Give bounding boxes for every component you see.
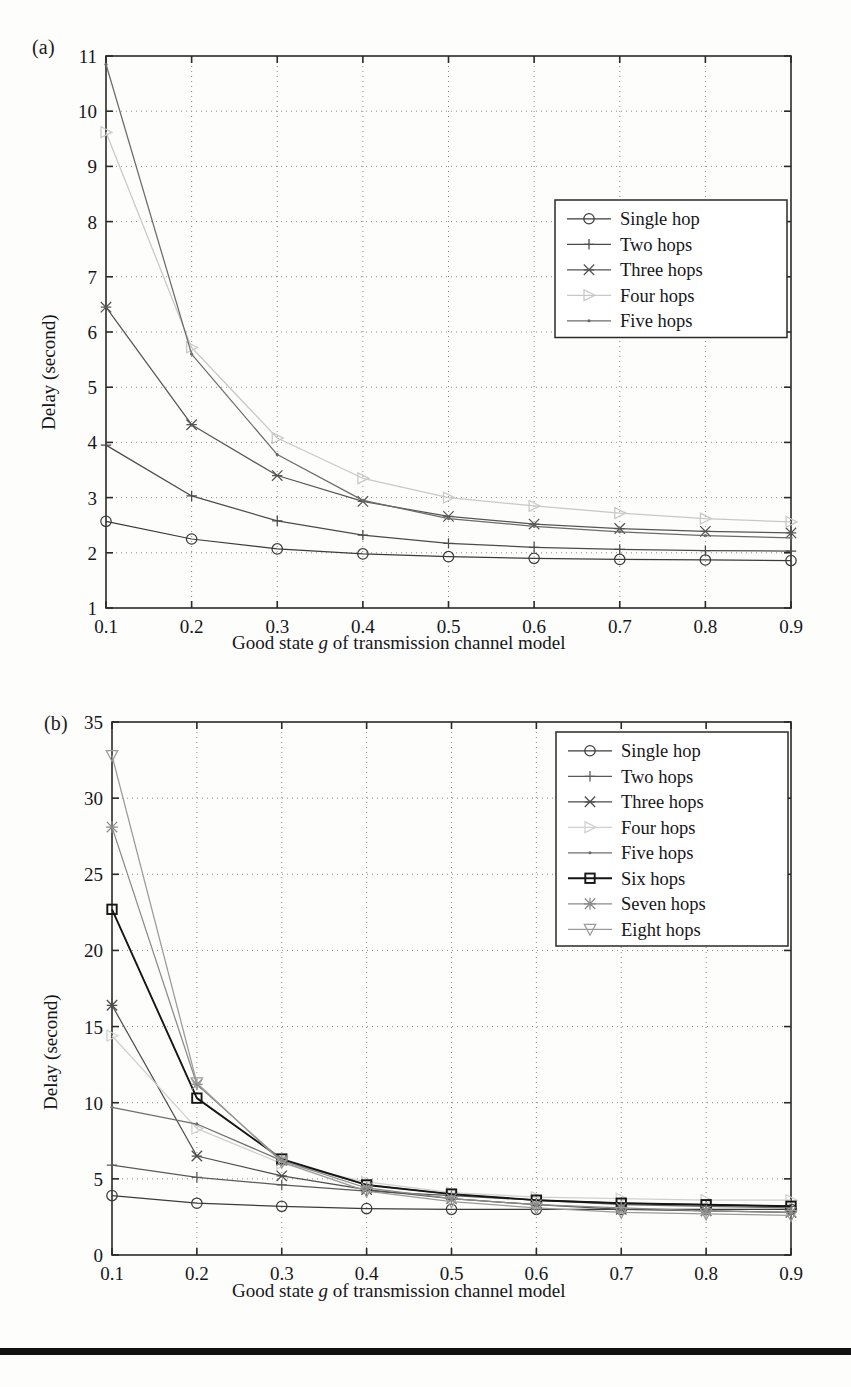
ytick-label: 3	[88, 488, 98, 509]
marker-plus	[101, 440, 111, 450]
marker-plus	[443, 538, 453, 548]
chart-a-xlabel: Good state g of transmission channel mod…	[232, 632, 566, 654]
series-line	[112, 1005, 791, 1212]
chart-b-xlabel-prefix: Good state	[232, 1280, 319, 1301]
legend-label: Two hops	[620, 235, 692, 255]
figure-page: (a) 12345678910110.10.20.30.40.50.60.70.…	[0, 0, 851, 1387]
chart-a-canvas: 12345678910110.10.20.30.40.50.60.70.80.9…	[0, 0, 851, 670]
legend-label: Six hops	[621, 869, 685, 889]
ytick-label: 6	[88, 322, 98, 343]
chart-b-canvas: 051015202530350.10.20.30.40.50.60.70.80.…	[0, 670, 851, 1320]
ytick-label: 5	[94, 1169, 104, 1190]
figure-panel-a: (a) 12345678910110.10.20.30.40.50.60.70.…	[0, 0, 851, 670]
chart-a-ylabel: Delay (second)	[38, 314, 60, 430]
marker-plus	[192, 1172, 202, 1182]
marker-asterisk	[106, 821, 118, 833]
marker-dot	[789, 536, 792, 539]
legend-label: Single hop	[621, 741, 701, 761]
legend-label: Three hops	[620, 260, 703, 280]
ytick-label: 2	[88, 543, 98, 564]
marker-dot	[361, 499, 364, 502]
xtick-label: 0.9	[779, 616, 803, 637]
xtick-label: 0.9	[779, 1263, 803, 1284]
ytick-label: 5	[88, 377, 98, 398]
xtick-label: 0.1	[94, 616, 118, 637]
legend-label: Single hop	[620, 209, 700, 229]
chart-a-xlabel-suffix: of transmission channel model	[328, 632, 565, 653]
ytick-label: 7	[88, 267, 98, 288]
xtick-label: 0.7	[608, 616, 632, 637]
marker-plus	[700, 545, 710, 555]
marker-dot	[588, 851, 591, 854]
xtick-label: 0.7	[609, 1263, 633, 1284]
marker-dot	[533, 525, 536, 528]
ytick-label: 8	[88, 212, 98, 233]
marker-dot	[195, 1122, 198, 1125]
chart-a-xlabel-italic: g	[319, 632, 329, 653]
svg-b-plot: 051015202530350.10.20.30.40.50.60.70.80.…	[84, 712, 803, 1284]
ytick-label: 15	[84, 1017, 103, 1038]
marker-dot	[618, 530, 621, 533]
chart-b-xlabel-suffix: of transmission channel model	[328, 1280, 565, 1301]
legend-label: Two hops	[621, 767, 693, 787]
ytick-label: 9	[88, 156, 98, 177]
marker-plus	[277, 1180, 287, 1190]
marker-asterisk	[584, 898, 596, 910]
chart-a-xlabel-prefix: Good state	[232, 632, 319, 653]
marker-plus	[786, 546, 796, 556]
caption-separator-rule	[0, 1348, 851, 1355]
chart-b-xlabel: Good state g of transmission channel mod…	[232, 1280, 566, 1302]
ytick-label: 10	[84, 1093, 103, 1114]
figure-panel-b: (b) 051015202530350.10.20.30.40.50.60.70…	[0, 670, 851, 1320]
marker-dot	[704, 534, 707, 537]
marker-dot	[276, 453, 279, 456]
marker-dot	[104, 63, 107, 66]
ytick-label: 11	[79, 46, 97, 67]
legend-label: Eight hops	[621, 920, 701, 940]
xtick-label: 0.8	[694, 1263, 718, 1284]
marker-dot	[190, 352, 193, 355]
ytick-label: 30	[84, 788, 103, 809]
ytick-label: 25	[84, 864, 103, 885]
legend-label: Seven hops	[621, 894, 706, 914]
svg-a-plot: 12345678910110.10.20.30.40.50.60.70.80.9…	[78, 46, 803, 637]
legend-label: Four hops	[621, 818, 696, 838]
legend-label: Four hops	[620, 286, 695, 306]
xtick-label: 0.2	[185, 1263, 209, 1284]
legend-label: Five hops	[620, 311, 692, 331]
ytick-label: 20	[84, 940, 103, 961]
legend-label: Five hops	[621, 843, 693, 863]
marker-plus	[358, 530, 368, 540]
xtick-label: 0.2	[180, 616, 204, 637]
marker-dot	[587, 319, 590, 322]
marker-dot	[447, 517, 450, 520]
chart-b-ylabel: Delay (second)	[40, 994, 62, 1110]
legend: Single hopTwo hopsThree hopsFour hopsFiv…	[555, 200, 787, 338]
marker-plus	[529, 542, 539, 552]
ytick-label: 10	[78, 101, 97, 122]
chart-b-xlabel-italic: g	[319, 1280, 329, 1301]
xtick-label: 0.8	[694, 616, 718, 637]
ytick-label: 4	[88, 432, 98, 453]
marker-dot	[110, 1106, 113, 1109]
xtick-label: 0.1	[100, 1263, 124, 1284]
marker-plus	[107, 1160, 117, 1170]
marker-plus	[272, 516, 282, 526]
legend-label: Three hops	[621, 792, 704, 812]
marker-plus	[186, 491, 196, 501]
ytick-label: 35	[84, 712, 103, 733]
legend: Single hopTwo hopsThree hopsFour hopsFiv…	[556, 732, 788, 946]
